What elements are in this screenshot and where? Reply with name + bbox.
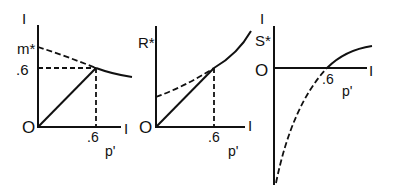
solid-curve <box>327 46 372 68</box>
solid-curve <box>214 31 251 68</box>
dashed-curve <box>38 47 96 68</box>
x-tick-label: .6 <box>322 71 334 87</box>
panel-s-star: I S* O I .6 p' <box>255 10 373 185</box>
dashed-curve <box>156 68 214 97</box>
axis-top-label: I <box>260 10 264 27</box>
x-tick-label: .6 <box>87 129 99 145</box>
x-end-label: I <box>369 62 373 79</box>
x-axis-label: p' <box>342 83 352 99</box>
x-axis-label: p' <box>228 143 238 159</box>
x-axis-label: p' <box>105 143 115 159</box>
origin-label: O <box>139 118 152 137</box>
diagonal-line <box>38 68 96 127</box>
origin-label: O <box>255 61 268 80</box>
x-end-label: I <box>248 117 252 134</box>
y-tick-label: .6 <box>16 61 29 78</box>
diagonal-line <box>156 68 214 127</box>
y-axis-label: m* <box>17 40 35 57</box>
figure-three-panels: I m* .6 O I .6 p' R* O I .6 p' I S* O I <box>0 0 393 196</box>
panel-r-star: R* O I .6 p' <box>138 26 252 159</box>
x-tick-label: .6 <box>208 129 220 145</box>
origin-label: O <box>22 118 35 137</box>
y-axis-label: R* <box>138 34 155 51</box>
dashed-curve <box>276 68 327 183</box>
y-axis-label: S* <box>255 32 271 49</box>
solid-curve <box>96 68 132 77</box>
x-end-label: I <box>124 120 128 137</box>
axis-top-label: I <box>22 10 26 27</box>
panel-m-star: I m* .6 O I .6 p' <box>16 10 132 159</box>
